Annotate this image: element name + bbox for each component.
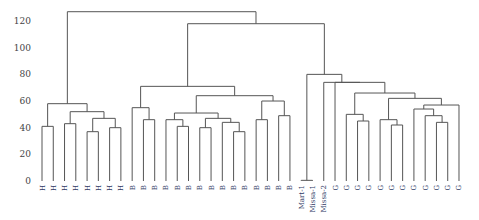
cluster-link [414,109,434,181]
leaf-label: H [117,185,125,191]
leaf-label: G [455,185,463,191]
leaf-label: B [230,185,238,190]
leaf-label: H [61,185,69,191]
cluster-link [166,120,183,181]
leaf-label: G [444,185,452,191]
cluster-link [301,180,312,181]
leaf-label: B [129,185,137,190]
y-tick-label: 40 [20,123,32,133]
leaf-label: Missa-1 [309,185,317,213]
leaf-label: G [365,185,373,191]
leaf-label: B [208,185,216,190]
leaf-label: B [151,185,159,190]
cluster-link [358,121,369,181]
y-tick-label: 120 [14,16,31,26]
leaf-label: H [50,185,58,191]
cluster-link [110,128,121,181]
leaf-label: Mart-1 [298,185,306,209]
leaf-label: B [219,185,227,190]
cluster-link [93,118,116,131]
leaf-label: H [95,185,103,191]
leaf-label: H [39,185,47,191]
leaf-label: G [343,185,351,191]
leaf-labels: HHHHHHHHBBBBBBBBBBBBBBBMart-1Missa-1Miss… [39,185,464,213]
leaf-label: B [286,185,294,190]
cluster-link [262,101,285,120]
cluster-link [335,82,385,181]
y-tick-label: 20 [20,149,32,159]
cluster-link [200,128,211,181]
cluster-link [391,125,402,181]
cluster-link [256,120,267,181]
y-tick-label: 80 [20,69,32,79]
y-tick-label: 60 [20,96,32,106]
y-tick-label: 100 [14,43,31,53]
leaf-label: G [388,185,396,191]
leaf-label: B [196,185,204,190]
cluster-link [65,124,76,181]
dendrogram-chart: 020406080100120 HHHHHHHHBBBBBBBBBBBBBBBM… [0,0,479,220]
cluster-link [222,122,239,181]
cluster-link [234,132,245,181]
cluster-link [143,120,154,181]
leaf-label: B [162,185,170,190]
leaf-label: B [174,185,182,190]
leaf-label: G [433,185,441,191]
leaf-label: H [106,185,114,191]
leaf-label: B [185,185,193,190]
cluster-link [132,108,149,181]
leaf-label: Missa-2 [320,185,328,213]
leaf-label: B [241,185,249,190]
cluster-link [48,104,87,127]
cluster-link [425,116,442,181]
leaf-label: G [377,185,385,191]
y-tick-label: 0 [25,176,31,186]
cluster-link [346,114,363,181]
leaf-label: H [84,185,92,191]
cluster-link [70,112,104,124]
leaf-label: B [140,185,148,190]
dendrogram-links [42,12,459,181]
cluster-link [141,86,235,107]
leaf-label: G [354,185,362,191]
cluster-link [307,74,342,180]
cluster-link [67,12,256,104]
leaf-label: B [253,185,261,190]
leaf-label: G [399,185,407,191]
cluster-link [87,132,98,181]
cluster-link [205,118,230,127]
leaf-label: H [72,185,80,191]
cluster-link [188,24,325,87]
y-axis: 020406080100120 [14,16,31,186]
leaf-label: G [422,185,430,191]
leaf-label: G [332,185,340,191]
cluster-link [380,120,397,181]
cluster-link [279,116,290,181]
cluster-link [436,122,447,181]
cluster-link [177,126,188,181]
leaf-label: B [275,185,283,190]
leaf-label: B [264,185,272,190]
cluster-link [42,126,53,181]
cluster-link [355,93,415,114]
leaf-label: G [410,185,418,191]
cluster-link [424,105,459,181]
